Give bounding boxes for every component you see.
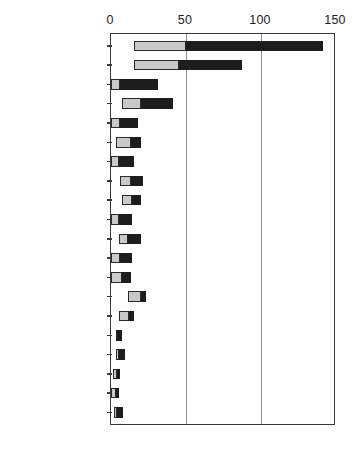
bar-segment-dark [141,98,173,109]
y-tick-mark [107,142,112,144]
bar-segment-light [111,253,120,264]
bar-row: Cuba [111,364,334,383]
bar-segment-light [119,311,130,322]
horizontal-bar-chart: 050100150 El SalvadorColombiaSurinameJam… [0,0,357,453]
bar-segment-light [111,156,119,167]
bar-segment-dark [186,41,323,52]
bar-row: Ecuador [111,113,334,132]
bar-row: Honduras [111,210,334,229]
bar-segment-dark [119,214,133,225]
y-tick-mark [107,238,112,240]
bar-row: Panama [111,306,334,325]
x-tick-label-150: 150 [324,13,345,27]
x-tick-label-0: 0 [106,13,113,27]
bar-row: Venezuela [111,229,334,248]
bar-segment-light [134,60,179,71]
bar-segment-light [120,176,131,187]
bar-segment-dark [120,118,138,129]
bar-row: Trinidad Tobago [111,345,334,364]
y-tick-mark [107,296,112,298]
bar-row: ST Vincent [111,190,334,209]
bar-row: Barbados [111,248,334,267]
y-tick-mark [107,335,112,337]
y-tick-mark [107,45,112,47]
bar-row: Costa Rica [111,133,334,152]
bar-segment-dark [131,137,142,148]
plot-area: El SalvadorColombiaSurinameJamaicaEcuado… [110,33,335,425]
bar-segment-dark [117,369,120,380]
bar-segment-light [111,79,120,90]
y-tick-mark [107,64,112,66]
y-tick-mark [107,180,112,182]
bar-segment-dark [131,176,143,187]
bar-row: Peru [111,383,334,402]
bar-row: Brazil [111,171,334,190]
bar-segment-light [128,291,142,302]
y-tick-mark [107,103,112,105]
bar-row: Colombia [111,55,334,74]
bar-segment-dark [179,60,242,71]
y-tick-mark [107,412,112,414]
bar-segment-light [111,118,120,129]
bar-segment-dark [120,79,158,90]
bar-segment-dark [117,407,123,418]
bar-segment-dark [116,388,119,399]
bar-segment-light [122,98,142,109]
bar-row: El Salvador [111,36,334,55]
bar-segment-light [122,195,133,206]
bar-segment-dark [129,311,134,322]
x-axis-tick-labels: 050100150 [0,13,357,31]
bar-segment-light [116,137,131,148]
x-tick-label-100: 100 [249,13,270,27]
bar-segment-light [134,41,187,52]
y-tick-mark [107,373,112,375]
bar-segment-dark [119,349,125,360]
bar-row: Chile [111,152,334,171]
bar-row: St Kitts & Nevis [111,268,334,287]
x-tick-label-50: 50 [178,13,192,27]
bar-segment-dark [122,272,131,283]
bar-row: Mexico [111,287,334,306]
bar-segment-dark [119,156,134,167]
y-tick-mark [107,315,112,317]
bar-segment-dark [128,234,142,245]
bar-segment-light [111,214,119,225]
bar-segment-light [119,234,128,245]
y-tick-mark [107,199,112,201]
bar-segment-dark [141,291,146,302]
bar-segment-dark [117,330,122,341]
bar-row: Suriname [111,75,334,94]
bar-segment-light [111,272,122,283]
bar-row: Jamaica [111,94,334,113]
bar-segment-dark [132,195,141,206]
bar-row: Argentina [111,326,334,345]
bar-segment-dark [120,253,132,264]
bar-row: Uruguay [111,403,334,422]
y-tick-mark [107,354,112,356]
